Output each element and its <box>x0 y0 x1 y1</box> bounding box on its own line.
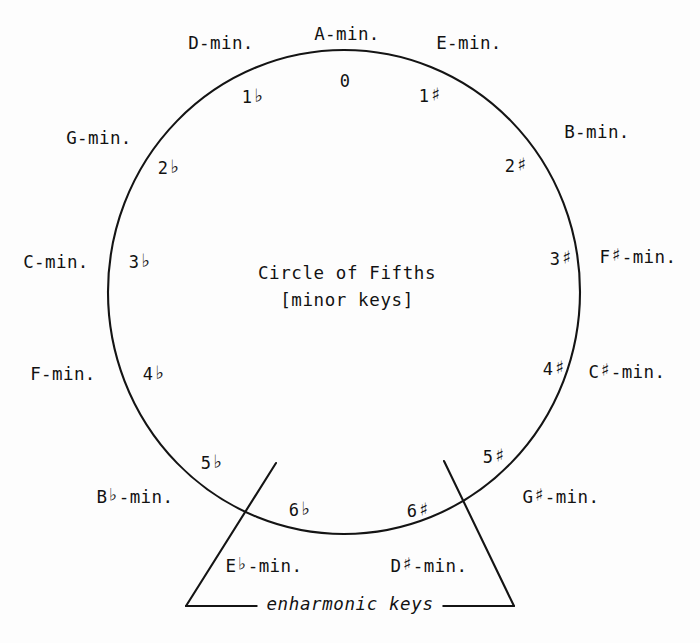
figure-title: Circle of Fifths [minor keys] <box>258 260 436 314</box>
key-label-e-flat-minor: E♭-min. <box>226 557 303 576</box>
key-label-e-minor-text: E-min. <box>436 33 502 53</box>
key-label-g-sharp-minor-tail: -min. <box>545 487 600 507</box>
sharp-icon: ♯ <box>402 553 413 574</box>
key-label-b-minor-text: B-min. <box>564 122 630 142</box>
flat-icon: ♭ <box>140 249 152 271</box>
key-label-c-sharp-minor-tail: -min. <box>611 362 666 382</box>
signature-count-6-flat: 6 <box>289 500 300 520</box>
sharp-icon: ♯ <box>516 153 528 175</box>
signature-count-3-flat: 3 <box>129 252 140 272</box>
key-label-d-minor: D-min. <box>188 35 254 53</box>
key-label-g-minor-text: G-min. <box>66 128 132 148</box>
key-label-d-sharp-minor: D♯-min. <box>391 557 468 576</box>
key-label-g-minor: G-min. <box>66 130 132 148</box>
signature-count-5-sharp: 5 <box>483 447 494 467</box>
key-label-g-sharp-minor: G♯-min. <box>523 488 600 507</box>
sharp-icon: ♯ <box>418 498 430 520</box>
signature-count-4-flat: 4 <box>143 364 154 384</box>
enharmonic-bracket-right-line <box>444 461 514 606</box>
signature-label-6-sharp: 6♯ <box>407 501 429 520</box>
signature-label-1-flat: 1♭ <box>242 87 264 106</box>
sharp-icon: ♯ <box>611 244 622 265</box>
signature-label-1-sharp: 1♯ <box>419 86 441 105</box>
key-label-b-minor: B-min. <box>564 124 630 142</box>
key-label-f-sharp-minor-root: F <box>600 247 611 267</box>
signature-label-3-flat: 3♭ <box>129 252 151 271</box>
flat-icon: ♭ <box>154 361 166 383</box>
key-label-c-minor-text: C-min. <box>23 252 89 272</box>
key-label-e-flat-minor-root: E <box>226 556 237 576</box>
sharp-icon: ♯ <box>534 484 545 505</box>
key-label-f-sharp-minor-tail: -min. <box>622 247 677 267</box>
signature-label-4-flat: 4♭ <box>143 364 165 383</box>
sharp-icon: ♯ <box>561 246 573 268</box>
flat-icon: ♭ <box>237 553 248 574</box>
key-label-f-minor: F-min. <box>30 366 96 384</box>
signature-label-5-flat: 5♭ <box>201 453 223 472</box>
signature-count-1-flat: 1 <box>242 87 253 107</box>
signature-count-2-flat: 2 <box>158 158 169 178</box>
flat-icon: ♭ <box>300 497 312 519</box>
key-label-f-minor-text: F-min. <box>30 364 96 384</box>
flat-icon: ♭ <box>253 84 265 106</box>
key-label-g-sharp-minor-root: G <box>523 487 534 507</box>
signature-count-1-sharp: 1 <box>419 86 430 106</box>
key-label-c-sharp-minor: C♯-min. <box>589 363 666 382</box>
flat-icon: ♭ <box>108 484 119 505</box>
signature-count-5-flat: 5 <box>201 453 212 473</box>
signature-label-3-sharp: 3♯ <box>550 249 572 268</box>
key-label-a-minor: A-min. <box>314 26 380 44</box>
signature-label-6-flat: 6♭ <box>289 500 311 519</box>
signature-count-3-sharp: 3 <box>550 249 561 269</box>
signature-label-0: 0 <box>340 73 351 90</box>
key-label-b-flat-minor-tail: -min. <box>119 487 174 507</box>
key-label-d-sharp-minor-root: D <box>391 556 402 576</box>
sharp-icon: ♯ <box>554 356 566 378</box>
key-label-b-flat-minor: B♭-min. <box>97 488 174 507</box>
key-label-b-flat-minor-root: B <box>97 487 108 507</box>
flat-icon: ♭ <box>212 450 224 472</box>
signature-label-2-flat: 2♭ <box>158 158 180 177</box>
signature-label-2-sharp: 2♯ <box>505 156 527 175</box>
signature-count-4-sharp: 4 <box>543 359 554 379</box>
sharp-icon: ♯ <box>600 359 611 380</box>
key-label-e-minor: E-min. <box>436 35 502 53</box>
signature-label-5-sharp: 5♯ <box>483 447 505 466</box>
figure-title-line-2: [minor keys] <box>258 287 436 314</box>
signature-count-6-sharp: 6 <box>407 501 418 521</box>
key-label-e-flat-minor-tail: -min. <box>248 556 303 576</box>
key-label-d-minor-text: D-min. <box>188 33 254 53</box>
circle-of-fifths-figure: Circle of Fifths [minor keys] A-min. E-m… <box>0 0 700 643</box>
figure-title-line-1: Circle of Fifths <box>258 263 436 283</box>
enharmonic-keys-caption: enharmonic keys <box>257 594 442 614</box>
key-label-c-minor: C-min. <box>23 254 89 272</box>
signature-count-0: 0 <box>340 71 351 91</box>
signature-label-4-sharp: 4♯ <box>543 359 565 378</box>
key-label-d-sharp-minor-tail: -min. <box>413 556 468 576</box>
signature-count-2-sharp: 2 <box>505 156 516 176</box>
flat-icon: ♭ <box>169 155 181 177</box>
diagram-linework <box>0 0 700 643</box>
sharp-icon: ♯ <box>494 444 506 466</box>
sharp-icon: ♯ <box>430 83 442 105</box>
key-label-c-sharp-minor-root: C <box>589 362 600 382</box>
key-label-a-minor-text: A-min. <box>314 24 380 44</box>
key-label-f-sharp-minor: F♯-min. <box>600 248 677 267</box>
